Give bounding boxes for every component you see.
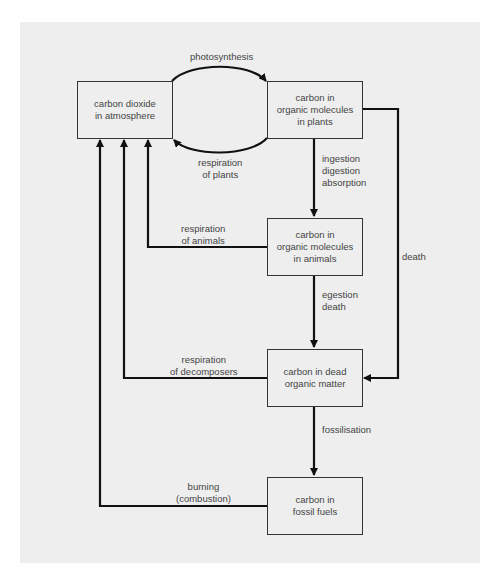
- label-burning: burning (combustion): [176, 481, 231, 505]
- node-carbon-plants: carbon in organic molecules in plants: [267, 81, 363, 139]
- node-label: in atmosphere: [95, 110, 155, 122]
- node-label: organic molecules: [277, 241, 354, 253]
- node-label: organic matter: [285, 378, 346, 390]
- label-respiration-decomposers: respiration of decomposers: [170, 354, 238, 378]
- arrow-respiration-plants: [174, 138, 267, 153]
- label-ingestion: ingestion digestion absorption: [322, 153, 366, 189]
- node-label: carbon in: [295, 229, 334, 241]
- arrow-burning: [100, 140, 268, 506]
- node-label: in plants: [297, 116, 332, 128]
- node-label: organic molecules: [277, 104, 354, 116]
- node-co2-atmosphere: carbon dioxide in atmosphere: [77, 81, 173, 139]
- node-label: fossil fuels: [293, 506, 337, 518]
- label-fossilisation: fossilisation: [322, 424, 371, 436]
- arrow-photosynthesis: [172, 67, 266, 81]
- node-label: carbon in: [295, 494, 334, 506]
- node-label: carbon in dead: [284, 366, 347, 378]
- node-label: in animals: [294, 253, 337, 265]
- node-carbon-animals: carbon in organic molecules in animals: [267, 218, 363, 276]
- node-label: carbon in: [295, 92, 334, 104]
- node-label: carbon dioxide: [94, 98, 156, 110]
- label-death: death: [402, 251, 426, 263]
- arrow-death: [362, 109, 398, 378]
- label-photosynthesis: photosynthesis: [190, 51, 253, 63]
- node-carbon-dead-matter: carbon in dead organic matter: [267, 349, 363, 407]
- label-respiration-plants: respiration of plants: [198, 157, 242, 181]
- label-respiration-animals: respiration of animals: [181, 223, 225, 247]
- connector-lines: [0, 0, 493, 583]
- label-egestion: egestion death: [322, 289, 358, 313]
- arrow-respiration-decomposers: [124, 140, 268, 378]
- node-carbon-fossil-fuels: carbon in fossil fuels: [267, 477, 363, 535]
